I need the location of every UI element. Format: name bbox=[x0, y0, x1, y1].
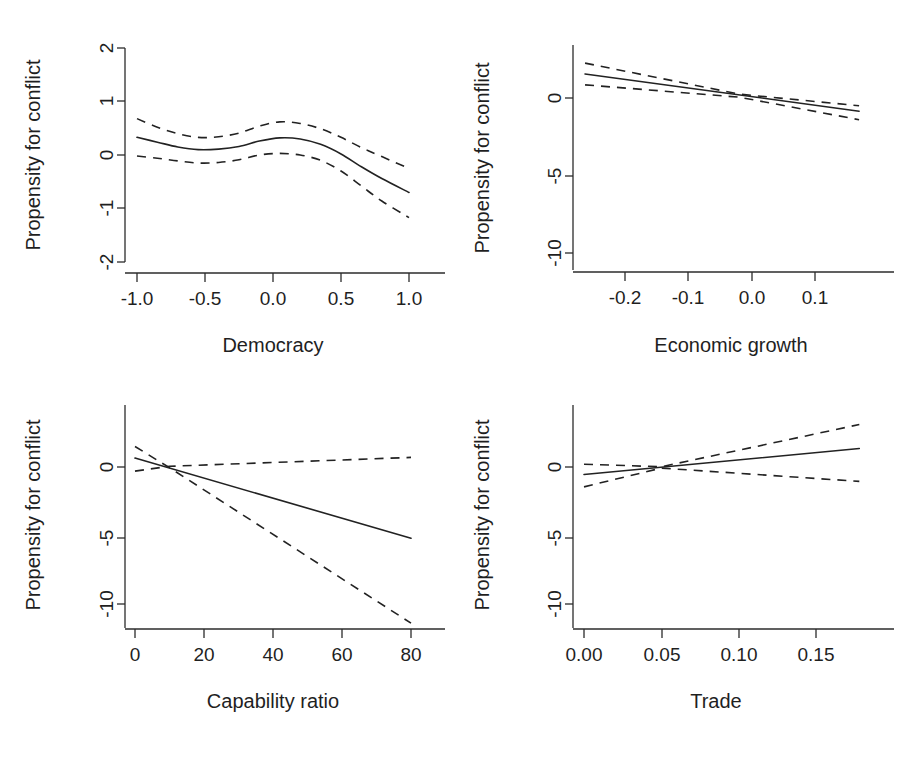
panel-trade: 0 -5 -10 0.00 0.05 0.10 0.15 Trade Prope… bbox=[451, 380, 902, 757]
y-tick-label-0: 0 bbox=[544, 93, 565, 104]
y-axis-title: Propensity for conflict bbox=[471, 419, 493, 611]
fit-path bbox=[135, 458, 411, 538]
panel-capability-ratio-plot: 0 -5 -10 0 20 40 60 80 Capability ratio … bbox=[0, 380, 451, 757]
y-tick-label-neg2: -2 bbox=[96, 254, 117, 271]
y-tick-label-1: 1 bbox=[96, 96, 117, 107]
x-tick-label-0: 0.0 bbox=[739, 287, 765, 308]
y-tick-label-neg10: -10 bbox=[96, 590, 117, 617]
y-tick-label-neg5: -5 bbox=[96, 530, 117, 547]
x-tick-label-80: 80 bbox=[400, 644, 421, 665]
x-tick-label-20: 20 bbox=[193, 644, 214, 665]
upper-ci-path bbox=[137, 119, 409, 169]
x-tick-label-000: 0.00 bbox=[566, 644, 603, 665]
x-tick-label-1: 1.0 bbox=[396, 288, 422, 309]
y-axis-title: Propensity for conflict bbox=[22, 59, 44, 251]
series-group bbox=[585, 63, 859, 120]
y-tick-label-0: 0 bbox=[96, 150, 117, 161]
y-tick-label-neg5: -5 bbox=[544, 168, 565, 185]
upper-ci-path bbox=[585, 63, 859, 106]
x-tick-label-40: 40 bbox=[262, 644, 283, 665]
y-tick-label-neg1: -1 bbox=[96, 200, 117, 217]
fit-path bbox=[137, 137, 409, 192]
x-tick-label-005: 0.05 bbox=[644, 644, 681, 665]
x-tick-label-neg1: -1.0 bbox=[121, 288, 154, 309]
y-axis-title: Propensity for conflict bbox=[471, 62, 493, 254]
x-axis-title: Democracy bbox=[222, 334, 323, 356]
lower-ci-path bbox=[135, 446, 411, 623]
x-tick-label-neg01: -0.1 bbox=[672, 287, 705, 308]
panel-capability-ratio: 0 -5 -10 0 20 40 60 80 Capability ratio … bbox=[0, 380, 451, 757]
x-tick-label-60: 60 bbox=[331, 644, 352, 665]
x-tick-label-0: 0 bbox=[130, 644, 141, 665]
lower-ci-path bbox=[585, 85, 859, 120]
y-axis-title: Propensity for conflict bbox=[22, 419, 44, 611]
fit-path bbox=[584, 449, 859, 475]
x-tick-label-neg05: -0.5 bbox=[189, 288, 222, 309]
y-tick-label-0: 0 bbox=[544, 462, 565, 473]
x-tick-label-0: 0.0 bbox=[260, 288, 286, 309]
upper-ci-path bbox=[584, 425, 859, 467]
x-axis-title: Capability ratio bbox=[207, 690, 339, 712]
panel-democracy: 2 1 0 -1 -2 -1.0 -0.5 0.0 0.5 1.0 Democr… bbox=[0, 0, 451, 378]
x-tick-label-05: 0.5 bbox=[328, 288, 354, 309]
upper-ci-path bbox=[135, 457, 411, 471]
series-group bbox=[135, 446, 411, 623]
panel-economic-growth: 0 -5 -10 -0.2 -0.1 0.0 0.1 Economic grow… bbox=[451, 0, 902, 378]
y-tick-label-2: 2 bbox=[96, 43, 117, 54]
x-tick-label-010: 0.10 bbox=[721, 644, 758, 665]
x-axis-title: Economic growth bbox=[654, 334, 807, 356]
y-tick-label-neg10: -10 bbox=[544, 239, 565, 266]
lower-ci-path bbox=[137, 153, 409, 217]
x-tick-label-01: 0.1 bbox=[802, 287, 828, 308]
fit-path bbox=[585, 74, 859, 111]
y-tick-label-neg10: -10 bbox=[544, 590, 565, 617]
y-tick-label-0: 0 bbox=[96, 462, 117, 473]
y-tick-label-neg5: -5 bbox=[544, 530, 565, 547]
panel-trade-plot: 0 -5 -10 0.00 0.05 0.10 0.15 Trade Prope… bbox=[451, 380, 902, 757]
x-tick-label-015: 0.15 bbox=[798, 644, 835, 665]
panel-democracy-plot: 2 1 0 -1 -2 -1.0 -0.5 0.0 0.5 1.0 Democr… bbox=[0, 0, 451, 378]
x-axis-title: Trade bbox=[690, 690, 742, 712]
series-group bbox=[137, 119, 409, 218]
multi-panel-figure: 2 1 0 -1 -2 -1.0 -0.5 0.0 0.5 1.0 Democr… bbox=[0, 0, 902, 757]
series-group bbox=[584, 425, 859, 487]
panel-economic-growth-plot: 0 -5 -10 -0.2 -0.1 0.0 0.1 Economic grow… bbox=[451, 0, 902, 378]
x-tick-label-neg02: -0.2 bbox=[609, 287, 642, 308]
